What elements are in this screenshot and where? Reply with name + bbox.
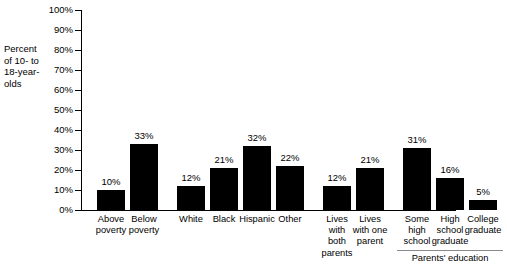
category-label-line: Other: [267, 214, 313, 225]
bar: [97, 190, 125, 210]
bar-value-label: 12%: [169, 173, 213, 183]
category-label-line: poverty: [121, 225, 167, 236]
bar-value-label: 22%: [268, 153, 312, 163]
bar-value-label: 31%: [395, 135, 439, 145]
category-label-line: Lives: [347, 214, 393, 225]
category-label-line: graduate: [427, 236, 473, 247]
bar: [403, 148, 431, 210]
bar: [177, 186, 205, 210]
bar: [276, 166, 304, 210]
bar: [356, 168, 384, 210]
category-label: Other: [267, 214, 313, 225]
bar-value-label: 33%: [122, 131, 166, 141]
bar-value-label: 21%: [348, 155, 392, 165]
bar: [469, 200, 497, 210]
bar: [130, 144, 158, 210]
bar: [436, 178, 464, 210]
category-label-line: parent: [347, 236, 393, 247]
bar-value-label: 32%: [235, 133, 279, 143]
category-label-line: with one: [347, 225, 393, 236]
bar-value-label: 21%: [202, 155, 246, 165]
bar-value-label: 16%: [428, 165, 472, 175]
category-label: Collegegraduate: [460, 214, 506, 236]
category-label-line: College: [460, 214, 506, 225]
category-label: Liveswith oneparent: [347, 214, 393, 248]
group-bracket-rule: [397, 250, 503, 251]
bar: [323, 186, 351, 210]
category-label-line: graduate: [460, 225, 506, 236]
category-label: Belowpoverty: [121, 214, 167, 236]
group-bracket-label: Parents' education: [387, 253, 507, 264]
category-label-line: Below: [121, 214, 167, 225]
bar-value-label: 10%: [89, 177, 133, 187]
category-label-line: parents: [314, 248, 360, 259]
bar: [243, 146, 271, 210]
bar-value-label: 12%: [315, 173, 359, 183]
bars-layer: [0, 0, 460, 211]
bar-value-label: 5%: [461, 187, 505, 197]
bar: [210, 168, 238, 210]
